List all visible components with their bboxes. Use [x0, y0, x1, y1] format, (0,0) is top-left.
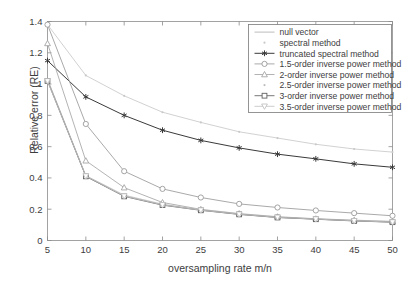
legend-label: truncated spectral method [280, 49, 380, 59]
data-point-marker [263, 42, 265, 44]
data-point-marker [83, 158, 89, 163]
data-point-marker [200, 121, 202, 123]
data-point-marker [262, 93, 267, 98]
y-tick-label: 0.2 [29, 204, 42, 215]
data-point-marker [45, 40, 51, 45]
data-point-marker [352, 211, 357, 216]
legend-label: 1.5-order inverse power method [280, 59, 402, 69]
x-axis-label: oversampling rate m/n [47, 262, 393, 274]
x-tick-label: 45 [349, 244, 360, 255]
data-point-marker [262, 61, 267, 66]
x-tick-label: 25 [196, 244, 207, 255]
data-point-marker [353, 148, 355, 150]
chart-canvas: 510152025303540455000.20.40.60.811.21.4n… [0, 0, 418, 288]
y-axis-label: Relative error (RE) [28, 35, 40, 185]
legend-label: null vector [280, 27, 319, 37]
legend-label: spectral method [280, 38, 341, 48]
data-point-marker [121, 185, 127, 190]
legend-item-5[interactable]: 2.5-order inverse power method [263, 80, 401, 90]
legend-label: 3.5-order inverse power method [280, 102, 402, 112]
data-point-marker [237, 201, 242, 206]
legend-label: 3-order inverse power method [280, 91, 395, 101]
x-tick-label: 40 [311, 244, 322, 255]
x-tick-label: 15 [119, 244, 130, 255]
data-point-marker [391, 151, 393, 153]
data-point-marker [238, 131, 240, 133]
x-tick-label: 10 [81, 244, 92, 255]
data-point-marker [160, 186, 165, 191]
x-tick-label: 50 [387, 244, 398, 255]
x-tick-label: 5 [45, 244, 50, 255]
data-point-marker [83, 121, 88, 126]
legend-label: 2.5-order inverse power method [280, 80, 402, 90]
data-point-marker [313, 208, 318, 213]
data-point-marker [263, 84, 265, 86]
data-point-marker [198, 195, 203, 200]
data-point-marker [123, 95, 125, 97]
data-point-marker [315, 143, 317, 145]
data-point-marker [122, 169, 127, 174]
x-tick-label: 20 [157, 244, 168, 255]
x-tick-label: 35 [272, 244, 283, 255]
figure-container: 510152025303540455000.20.40.60.811.21.4n… [0, 0, 418, 288]
data-point-marker [275, 205, 280, 210]
x-tick-label: 30 [234, 244, 245, 255]
legend-label: 2-order inverse power method [280, 70, 395, 80]
y-tick-label: 0 [37, 235, 42, 246]
data-point-marker [276, 137, 278, 139]
data-point-marker [161, 111, 163, 113]
data-point-marker [85, 74, 87, 76]
data-point-marker [45, 22, 50, 27]
y-tick-label: 1.4 [29, 16, 42, 27]
legend: null vectorspectral methodtruncated spec… [249, 25, 402, 113]
